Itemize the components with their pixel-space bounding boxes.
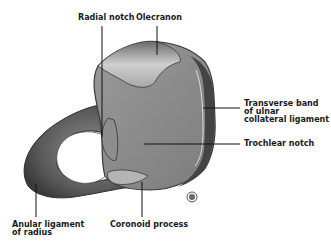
label-transverse-band: Transverse band of ulnar collateral liga… bbox=[244, 100, 329, 124]
label-trochlear-notch: Trochlear notch bbox=[244, 140, 314, 148]
label-anular-ligament: Anular ligament of radius bbox=[12, 221, 84, 237]
publisher-logo-icon bbox=[187, 192, 197, 202]
label-radial-notch: Radial notch bbox=[78, 14, 134, 22]
label-olecranon: Olecranon bbox=[136, 14, 182, 22]
label-coronoid-process: Coronoid process bbox=[110, 221, 188, 229]
